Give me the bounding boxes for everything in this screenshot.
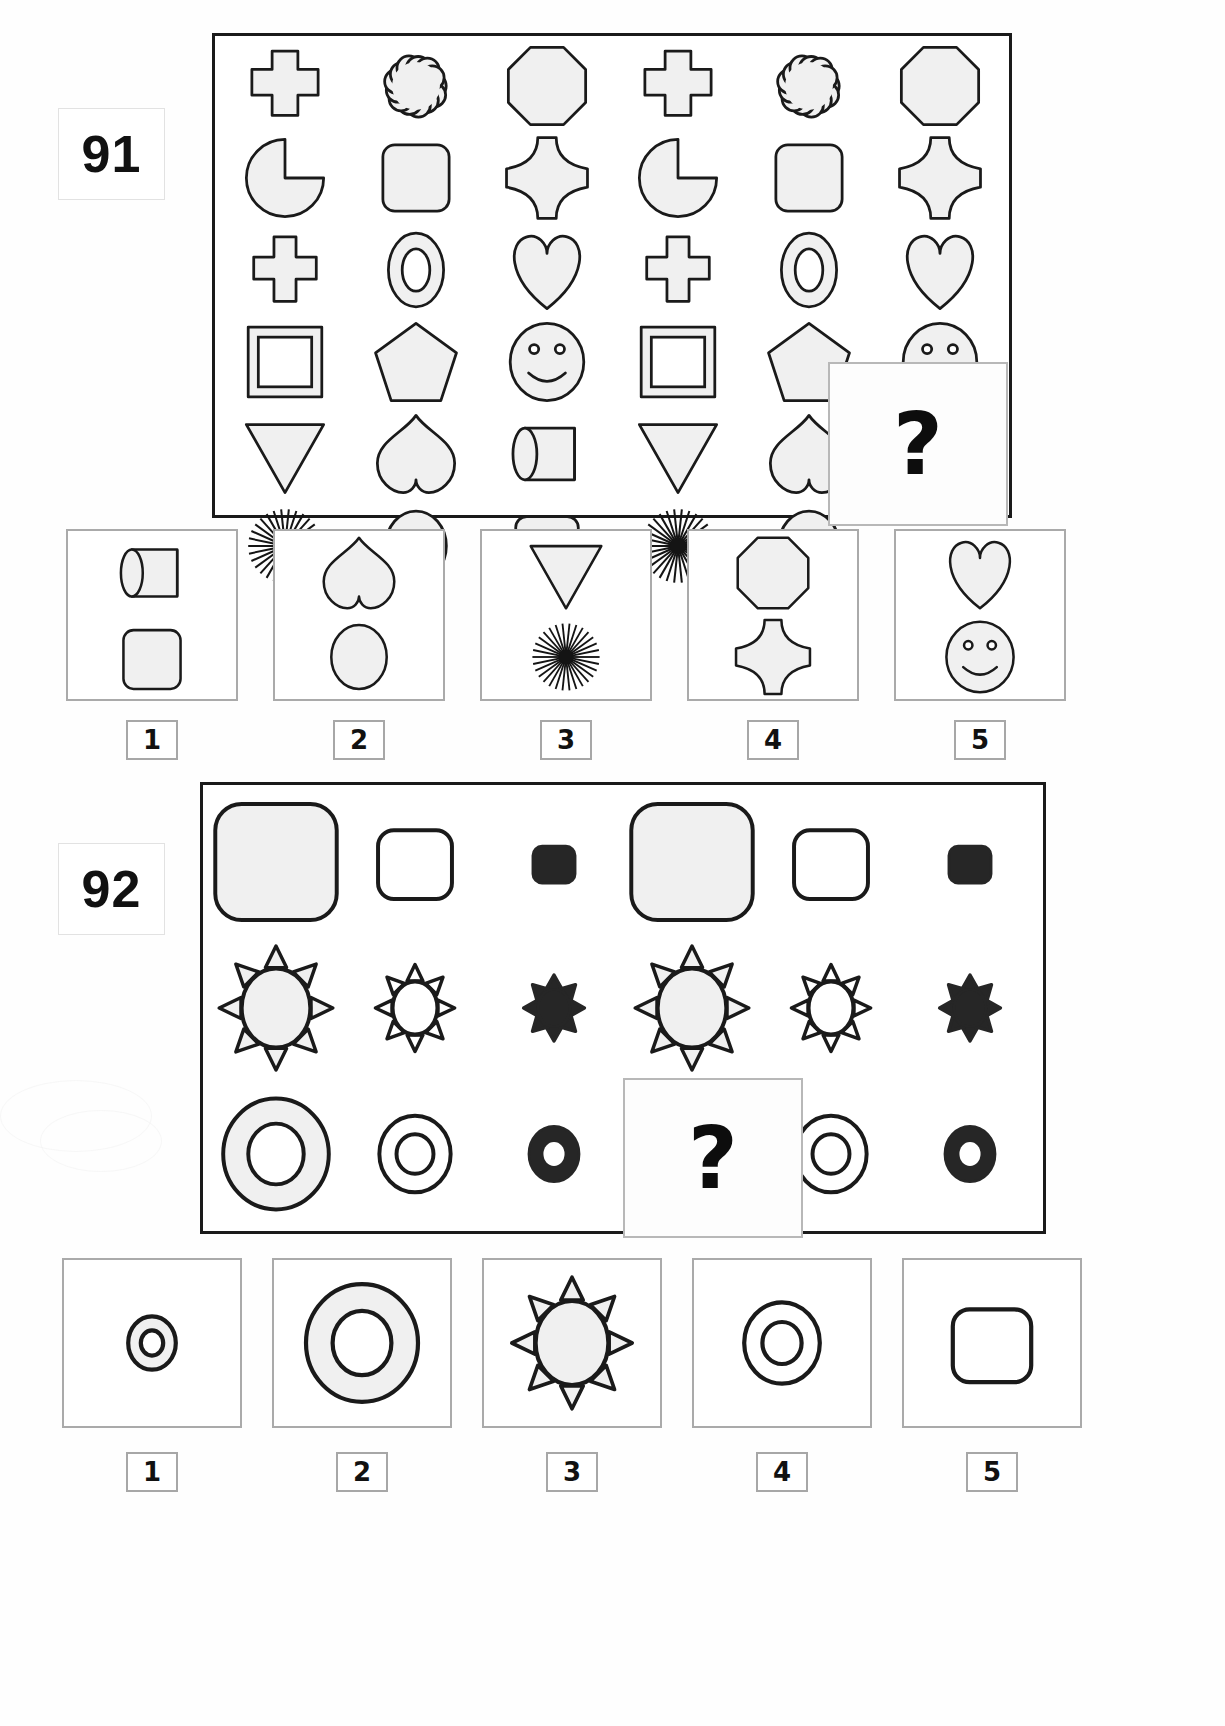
option-card-5[interactable]: [902, 1258, 1082, 1428]
option-label-5[interactable]: 5: [966, 1452, 1018, 1492]
matrix-cell: [219, 224, 350, 316]
question-mark-92: ?: [688, 1115, 738, 1201]
worksheet-page: 91 ? 12345 92 ? 12345: [0, 0, 1225, 1726]
shape-pacman: [632, 132, 724, 224]
shape-sun-mid-white: [765, 942, 897, 1074]
option-card-3[interactable]: [480, 529, 652, 701]
option-label-4[interactable]: 4: [747, 720, 799, 760]
matrix-cell: [219, 316, 350, 408]
option-label-4[interactable]: 4: [756, 1452, 808, 1492]
matrix-cell: [612, 224, 743, 316]
scan-smudge: [0, 1080, 152, 1152]
shape-ring-oval: [763, 224, 855, 316]
matrix-cell: [900, 789, 1039, 935]
shape-four-point-star: [894, 132, 986, 224]
matrix-cell: [207, 789, 346, 935]
shape-cloud: [763, 40, 855, 132]
matrix-cell: [481, 132, 612, 224]
shape-pacman: [239, 132, 331, 224]
option-labels-91: 12345: [66, 720, 1156, 762]
shape-donut-big-grey: [210, 1088, 342, 1220]
shape-sunburst: [524, 615, 608, 699]
matrix-cell: [346, 935, 485, 1081]
question-mark-91: ?: [893, 401, 943, 487]
shape-double-square: [632, 316, 724, 408]
matrix-cell: [350, 40, 481, 132]
matrix-cell: [346, 789, 485, 935]
shape-double-square: [239, 316, 331, 408]
option-label-1[interactable]: 1: [126, 720, 178, 760]
shape-donut-small-black: [488, 1088, 620, 1220]
shape-cylinder: [501, 408, 593, 500]
shape-pentagon: [370, 316, 462, 408]
option-label-1[interactable]: 1: [126, 1452, 178, 1492]
shape-four-point-star: [501, 132, 593, 224]
matrix-cell: [762, 935, 901, 1081]
matrix-cell: [484, 789, 623, 935]
matrix-cell: [219, 132, 350, 224]
option-card-4[interactable]: [692, 1258, 872, 1428]
shape-sun-big-grey: [626, 942, 758, 1074]
shape-sun-small-black: [904, 942, 1036, 1074]
matrix-cell: [874, 40, 1005, 132]
shape-rounded-rect: [110, 615, 194, 699]
shape-triangle-down: [524, 531, 608, 615]
shape-sun-big-grey: [502, 1273, 642, 1413]
matrix-cell: [219, 40, 350, 132]
matrix-cell: [481, 408, 612, 500]
option-card-2[interactable]: [272, 1258, 452, 1428]
matrix-cell: [623, 789, 762, 935]
option-card-1[interactable]: [66, 529, 238, 701]
shape-triangle-down: [632, 408, 724, 500]
matrix-cell: [484, 935, 623, 1081]
puzzle-number-92-text: 92: [82, 859, 142, 919]
option-card-5[interactable]: [894, 529, 1066, 701]
matrix-cell: [207, 935, 346, 1081]
shape-cylinder: [110, 531, 194, 615]
shape-smiley: [501, 316, 593, 408]
shape-ring-oval: [370, 224, 462, 316]
shape-rounded-square: [763, 132, 855, 224]
matrix-cell: [612, 132, 743, 224]
option-card-3[interactable]: [482, 1258, 662, 1428]
matrix-cell: [346, 1081, 485, 1227]
matrix-cell: [612, 316, 743, 408]
shape-sun-small-black: [488, 942, 620, 1074]
matrix-cell: [481, 224, 612, 316]
shape-octagon: [894, 40, 986, 132]
matrix-cell: [350, 316, 481, 408]
scan-smudge: [40, 1110, 162, 1172]
option-label-5[interactable]: 5: [954, 720, 1006, 760]
shape-rounded-square-big-grey: [626, 796, 758, 928]
shape-smiley: [938, 615, 1022, 699]
puzzle-number-91: 91: [58, 108, 165, 200]
question-box-91: ?: [828, 362, 1008, 526]
option-label-2[interactable]: 2: [336, 1452, 388, 1492]
shape-donut-big-grey: [292, 1273, 432, 1413]
shape-heart: [938, 531, 1022, 615]
option-label-3[interactable]: 3: [540, 720, 592, 760]
option-label-2[interactable]: 2: [333, 720, 385, 760]
shape-rounded-square-mid-white: [765, 796, 897, 928]
option-card-2[interactable]: [273, 529, 445, 701]
shape-heart-round: [317, 531, 401, 615]
shape-cross-plus: [632, 40, 724, 132]
shape-heart: [894, 224, 986, 316]
shape-rounded-square-small-black: [488, 796, 620, 928]
matrix-cell: [481, 316, 612, 408]
matrix-cell: [900, 1081, 1039, 1227]
shape-triangle-down: [239, 408, 331, 500]
matrix-cell: [612, 408, 743, 500]
option-label-3[interactable]: 3: [546, 1452, 598, 1492]
matrix-cell: [900, 935, 1039, 1081]
option-card-4[interactable]: [687, 529, 859, 701]
shape-cross: [239, 224, 331, 316]
option-card-1[interactable]: [62, 1258, 242, 1428]
shape-donut-tiny-grey: [82, 1273, 222, 1413]
option-labels-92: 12345: [62, 1452, 1162, 1494]
shape-cross-plus: [239, 40, 331, 132]
shape-rounded-square-mid-white: [349, 796, 481, 928]
shape-rounded-square-mid-white: [922, 1273, 1062, 1413]
shape-cross: [632, 224, 724, 316]
shape-sun-big-grey: [210, 942, 342, 1074]
